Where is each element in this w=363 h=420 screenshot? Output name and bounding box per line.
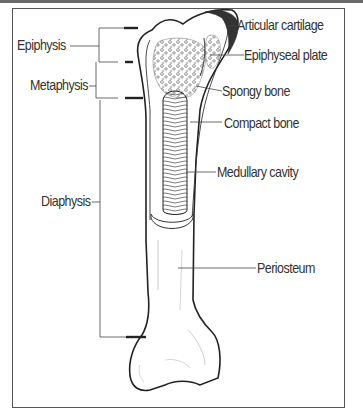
label-epiphysis: Epiphysis <box>17 37 66 53</box>
label-articular-cartilage: Articular cartilage <box>237 17 324 33</box>
label-diaphysis: Diaphysis <box>41 193 90 209</box>
medullary-cavity-shape <box>163 91 187 215</box>
left-brackets <box>70 28 128 337</box>
label-metaphysis: Metaphysis <box>30 77 88 93</box>
label-epiphyseal-plate: Epiphyseal plate <box>244 47 327 63</box>
label-medullary-cavity: Medullary cavity <box>217 164 298 180</box>
label-periosteum: Periosteum <box>257 260 315 276</box>
label-compact-bone: Compact bone <box>224 115 299 131</box>
bone-illustration <box>0 0 363 420</box>
label-spongy-bone: Spongy bone <box>222 83 290 99</box>
